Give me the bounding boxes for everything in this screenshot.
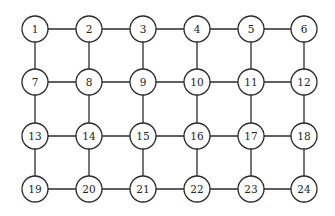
node-1: 1 (22, 16, 48, 42)
node-label: 12 (297, 76, 310, 88)
node-label: 15 (136, 130, 149, 142)
node-23: 23 (238, 176, 264, 202)
node-label: 14 (82, 130, 96, 142)
node-label: 13 (28, 130, 41, 142)
node-label: 7 (32, 76, 39, 88)
node-label: 24 (297, 183, 311, 195)
node-12: 12 (291, 69, 317, 95)
node-label: 3 (140, 23, 147, 35)
node-21: 21 (130, 176, 156, 202)
node-label: 16 (190, 130, 204, 142)
node-17: 17 (238, 123, 264, 149)
node-3: 3 (130, 16, 156, 42)
node-label: 17 (244, 130, 257, 142)
node-label: 21 (136, 183, 149, 195)
node-label: 4 (194, 23, 201, 35)
node-7: 7 (22, 69, 48, 95)
node-label: 8 (86, 76, 93, 88)
node-5: 5 (238, 16, 264, 42)
node-2: 2 (76, 16, 102, 42)
node-label: 11 (244, 76, 257, 88)
node-16: 16 (184, 123, 210, 149)
node-24: 24 (291, 176, 317, 202)
node-label: 9 (140, 76, 147, 88)
node-10: 10 (184, 69, 210, 95)
node-8: 8 (76, 69, 102, 95)
node-13: 13 (22, 123, 48, 149)
node-14: 14 (76, 123, 102, 149)
node-20: 20 (76, 176, 102, 202)
node-4: 4 (184, 16, 210, 42)
node-18: 18 (291, 123, 317, 149)
node-19: 19 (22, 176, 48, 202)
node-11: 11 (238, 69, 264, 95)
node-22: 22 (184, 176, 210, 202)
node-label: 6 (301, 23, 308, 35)
node-label: 18 (297, 130, 310, 142)
node-6: 6 (291, 16, 317, 42)
grid-graph-diagram: 123456789101112131415161718192021222324 (0, 0, 335, 216)
node-15: 15 (130, 123, 156, 149)
edges-layer (35, 29, 304, 189)
node-label: 10 (190, 76, 203, 88)
node-label: 2 (86, 23, 93, 35)
nodes-layer: 123456789101112131415161718192021222324 (22, 16, 317, 202)
node-9: 9 (130, 69, 156, 95)
node-label: 19 (28, 183, 41, 195)
graph-svg: 123456789101112131415161718192021222324 (0, 0, 335, 216)
node-label: 20 (82, 183, 95, 195)
node-label: 22 (190, 183, 203, 195)
node-label: 23 (244, 183, 257, 195)
node-label: 1 (32, 23, 39, 35)
node-label: 5 (248, 23, 255, 35)
